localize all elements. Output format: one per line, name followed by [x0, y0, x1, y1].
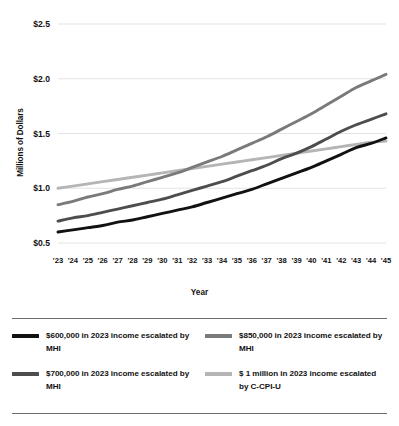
y-tick-label: $2.5	[33, 19, 50, 29]
x-tick-label: '38	[277, 256, 287, 265]
x-tick-label: '37	[262, 256, 272, 265]
x-tick-label: '43	[351, 256, 361, 265]
x-tick-label: '25	[83, 256, 94, 265]
x-tick-label: '44	[366, 256, 377, 265]
legend-item[interactable]: $850,000 in 2023 income escalated by MHI	[205, 330, 387, 355]
chart-canvas: $2.5$2.0$1.5$1.0$0.5 '23'24'25'26'27'28'…	[0, 0, 399, 308]
x-tick-label: '45	[381, 256, 392, 265]
x-tick-label: '34	[217, 256, 228, 265]
y-tick-label: $1.5	[33, 129, 50, 139]
x-tick-label: '26	[98, 256, 108, 265]
x-tick-label: '39	[291, 256, 301, 265]
y-tick-label: $0.5	[33, 238, 50, 248]
x-axis-tick-labels: '23'24'25'26'27'28'29'30'31'32'33'34'35'…	[53, 256, 392, 265]
x-tick-label: '24	[68, 256, 79, 265]
x-tick-label: '41	[321, 256, 332, 265]
legend-item-label: $700,000 in 2023 income escalated by MHI	[46, 368, 194, 393]
legend-top-divider	[12, 318, 387, 319]
y-axis-title: Millions of Dollars	[16, 97, 25, 189]
legend-item-label: $850,000 in 2023 income escalated by MHI	[239, 330, 387, 355]
x-tick-label: '33	[202, 256, 212, 265]
x-tick-label: '23	[53, 256, 63, 265]
legend-item[interactable]: $600,000 in 2023 income escalated by MHI	[12, 330, 194, 355]
x-tick-label: '42	[336, 256, 346, 265]
chart-legend: $600,000 in 2023 income escalated by MHI…	[0, 312, 399, 426]
x-axis-title: Year	[0, 288, 399, 297]
y-tick-label: $2.0	[33, 74, 50, 84]
legend-color-swatch	[205, 334, 232, 338]
legend-item-label: $ 1 million in 2023 income escalated by …	[239, 368, 387, 393]
x-tick-label: '40	[306, 256, 316, 265]
x-tick-label: '29	[142, 256, 152, 265]
x-tick-label: '30	[157, 256, 167, 265]
legend-item[interactable]: $700,000 in 2023 income escalated by MHI	[12, 368, 194, 393]
x-tick-label: '28	[127, 256, 137, 265]
legend-color-swatch	[12, 372, 39, 376]
series-line	[58, 74, 386, 204]
x-tick-label: '27	[113, 256, 123, 265]
x-tick-label: '31	[172, 256, 183, 265]
x-tick-label: '32	[187, 256, 197, 265]
legend-color-swatch	[12, 334, 39, 338]
y-axis-tick-labels: $2.5$2.0$1.5$1.0$0.5	[33, 19, 50, 248]
legend-color-swatch	[205, 372, 232, 376]
legend-bottom-divider	[12, 413, 387, 414]
chart-page: $2.5$2.0$1.5$1.0$0.5 '23'24'25'26'27'28'…	[0, 0, 399, 426]
series-lines	[58, 74, 386, 232]
series-line	[58, 138, 386, 232]
x-tick-label: '35	[232, 256, 243, 265]
y-tick-label: $1.0	[33, 183, 50, 193]
line-chart: $2.5$2.0$1.5$1.0$0.5 '23'24'25'26'27'28'…	[0, 0, 399, 308]
legend-items: $600,000 in 2023 income escalated by MHI…	[12, 330, 387, 393]
series-line	[58, 114, 386, 221]
x-tick-label: '36	[247, 256, 257, 265]
legend-item-label: $600,000 in 2023 income escalated by MHI	[46, 330, 194, 355]
legend-item[interactable]: $ 1 million in 2023 income escalated by …	[205, 368, 387, 393]
